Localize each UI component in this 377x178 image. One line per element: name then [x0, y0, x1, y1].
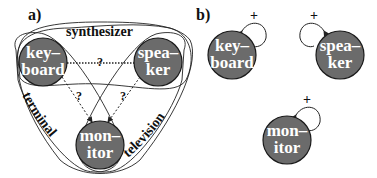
- node-monitor-b: + mon– itor: [263, 92, 320, 164]
- node-speaker-a-line2: ker: [146, 60, 171, 79]
- edge-label-keyboard-speaker: ?: [97, 55, 103, 69]
- node-keyboard-b: + key– board: [208, 8, 266, 79]
- diagram-root: a) ? ? ? synthesizer terminal television: [0, 0, 377, 178]
- diagram-canvas: a) ? ? ? synthesizer terminal television: [0, 0, 377, 178]
- node-monitor-a-line2: itor: [87, 143, 114, 162]
- panel-a-label: a): [28, 6, 41, 24]
- self-loop-speaker-label: +: [310, 8, 318, 23]
- edge-label-speaker-monitor: ?: [120, 89, 126, 103]
- panel-b: b) + key– board + spea– ker + mon– itor: [196, 6, 364, 164]
- node-monitor-a: mon– itor: [76, 121, 124, 169]
- set-label-synthesizer: synthesizer: [66, 24, 133, 39]
- set-label-television: television: [120, 109, 168, 160]
- node-keyboard-a: key– board: [19, 38, 67, 86]
- self-loop-monitor-label: +: [303, 92, 311, 107]
- edges-a: ? ? ?: [62, 55, 140, 122]
- self-loop-keyboard-label: +: [250, 8, 258, 23]
- panel-a: a) ? ? ? synthesizer terminal television: [15, 6, 193, 174]
- set-label-terminal: terminal: [19, 89, 59, 139]
- panel-b-label: b): [196, 6, 210, 24]
- edge-label-keyboard-monitor: ?: [76, 89, 82, 103]
- node-keyboard-a-line2: board: [21, 60, 65, 79]
- node-speaker-b: + spea– ker: [300, 8, 364, 79]
- node-speaker-b-line2: ker: [328, 53, 353, 72]
- node-speaker-a: spea– ker: [134, 38, 182, 86]
- node-keyboard-b-line2: board: [210, 53, 254, 72]
- node-monitor-b-line2: itor: [274, 138, 301, 157]
